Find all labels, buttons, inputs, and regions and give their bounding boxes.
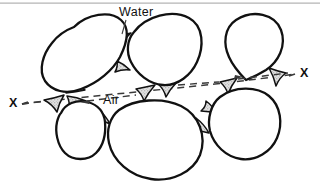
- meniscus-air-void-right: [136, 85, 155, 101]
- grain-upper-left: [42, 14, 127, 91]
- water-label: Water: [119, 6, 153, 19]
- section-label-x-right: X: [300, 67, 308, 80]
- section-line-over-center-right: [178, 82, 219, 85]
- grain-lower-center: [108, 100, 203, 179]
- figure-root: Water Air X X: [0, 0, 320, 187]
- air-label: Air: [103, 94, 119, 107]
- meniscus-upper-right-right: [269, 68, 286, 86]
- grain-diagram-svg: [0, 0, 320, 187]
- meniscus-left-contact: [44, 95, 64, 112]
- section-label-x-left: X: [9, 97, 17, 110]
- grain-upper-center: [128, 14, 202, 85]
- grains-group: [42, 14, 283, 179]
- grain-lower-right: [209, 89, 280, 160]
- grain-lower-left: [56, 101, 105, 159]
